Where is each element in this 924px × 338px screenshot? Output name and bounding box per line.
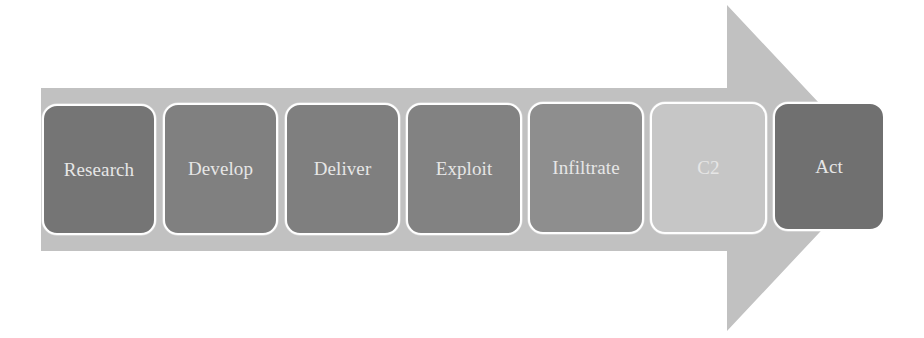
step-act: Act bbox=[773, 102, 885, 231]
step-label: Research bbox=[64, 159, 134, 181]
step-label: Infiltrate bbox=[552, 157, 619, 179]
step-deliver: Deliver bbox=[285, 103, 400, 235]
step-c2: C2 bbox=[650, 102, 767, 234]
step-label: Develop bbox=[188, 158, 253, 180]
step-label: Deliver bbox=[314, 158, 372, 180]
step-label: Exploit bbox=[436, 158, 493, 180]
step-infiltrate: Infiltrate bbox=[528, 102, 644, 234]
step-label: C2 bbox=[697, 157, 719, 179]
step-develop: Develop bbox=[163, 103, 278, 235]
step-label: Act bbox=[815, 156, 843, 178]
step-exploit: Exploit bbox=[406, 103, 522, 235]
step-research: Research bbox=[42, 104, 156, 235]
